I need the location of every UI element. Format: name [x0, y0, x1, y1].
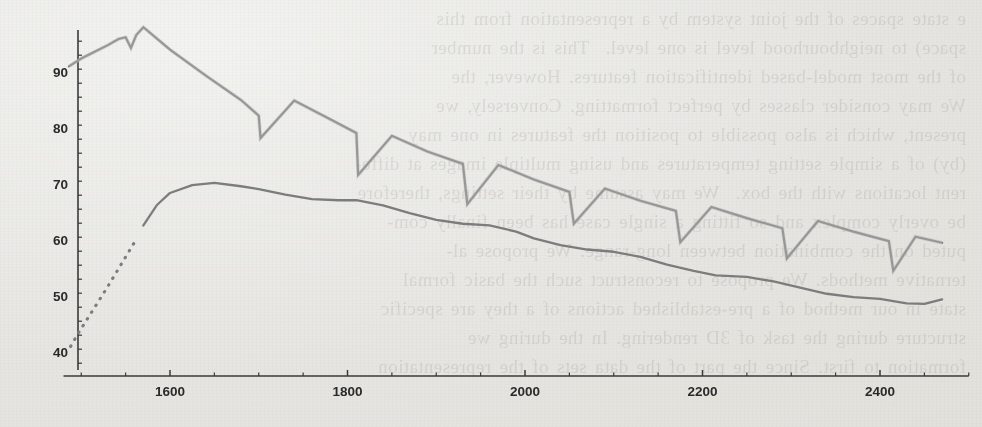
figure-page: e state spaces of the joint system by a … [0, 0, 982, 427]
series-dotted-segment [71, 242, 135, 346]
series-layer [69, 27, 942, 346]
x-tick-label: 2000 [510, 384, 540, 399]
y-tick-label: 80 [53, 121, 68, 136]
x-tick-label: 2200 [687, 384, 717, 399]
line-chart: 16001800200022002400405060708090 [0, 0, 982, 427]
x-tick-label: 1800 [332, 384, 362, 399]
x-tick-label: 2400 [865, 384, 895, 399]
y-tick-label: 60 [53, 233, 68, 248]
y-tick-label: 40 [53, 345, 68, 360]
y-tick-label: 50 [53, 289, 68, 304]
y-tick-label: 70 [53, 177, 68, 192]
x-tick-label: 1600 [155, 384, 185, 399]
y-tick-label: 90 [53, 65, 68, 80]
axes-layer [64, 30, 969, 376]
series-line [143, 183, 942, 304]
series-line [69, 27, 942, 271]
series-line-halo [69, 27, 942, 271]
tick-labels-layer: 16001800200022002400405060708090 [53, 65, 895, 399]
